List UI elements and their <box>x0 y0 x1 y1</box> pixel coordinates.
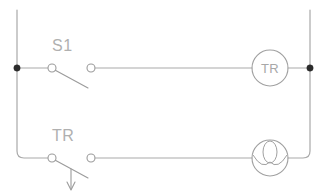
right-rail-junction-dot <box>307 65 313 71</box>
s1-left-terminal <box>48 64 56 72</box>
tr-relay-coil-label: TR <box>261 61 279 76</box>
tr-contact-right-terminal <box>87 154 95 162</box>
lamp-inner-loop <box>263 141 277 163</box>
tr-contact-left-terminal <box>48 154 56 162</box>
lamp-inner-arc-right <box>270 155 287 165</box>
tr-contact-blade[interactable] <box>55 160 88 178</box>
circuit-diagram: TR S1 TR <box>0 0 327 193</box>
lamp-device <box>252 140 288 176</box>
circuit-schematic-canvas: TR S1 TR <box>0 0 327 193</box>
s1-right-terminal <box>87 64 95 72</box>
tr-contact-label: TR <box>52 127 74 144</box>
left-power-rail <box>17 10 48 158</box>
left-rail-junction-dot <box>14 65 20 71</box>
right-power-rail <box>288 10 310 158</box>
s1-switch-blade[interactable] <box>55 70 88 88</box>
s1-label: S1 <box>52 37 73 54</box>
lamp-inner-arc-left <box>253 155 270 165</box>
